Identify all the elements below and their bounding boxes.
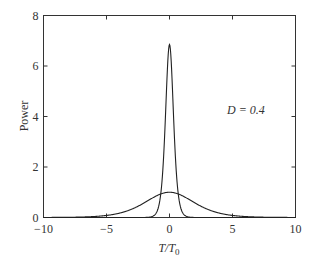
chart: −10−5051002468 D = 0.4 Power T/T0 <box>0 0 313 266</box>
y-tick-label: 2 <box>33 160 39 174</box>
x-axis-title-main: T/T <box>158 241 176 255</box>
x-tick-label: −5 <box>100 222 113 236</box>
x-tick-label: 0 <box>167 222 173 236</box>
narrow-pulse-curve <box>44 45 296 218</box>
x-tick-label: 10 <box>290 222 302 236</box>
tick-labels: −10−5051002468 <box>33 9 302 236</box>
y-tick-label: 0 <box>33 211 39 225</box>
y-tick-label: 6 <box>33 59 39 73</box>
x-axis-title-subscript: 0 <box>175 247 180 257</box>
y-axis-title: Power <box>17 101 31 132</box>
y-tick-label: 8 <box>33 9 39 23</box>
y-tick-label: 4 <box>33 110 39 124</box>
x-tick-label: 5 <box>230 222 236 236</box>
data-curves <box>44 45 296 218</box>
x-axis-title: T/T0 <box>158 241 180 257</box>
annotation-d-value: D = 0.4 <box>226 103 265 117</box>
